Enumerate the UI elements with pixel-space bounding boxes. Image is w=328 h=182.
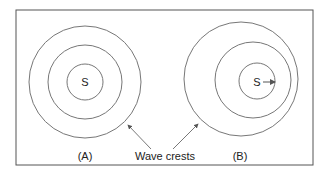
- diagram-frame: [16, 10, 313, 165]
- source-label-a: S: [81, 76, 88, 88]
- doppler-diagram: S (A) S (B) Wave crests: [0, 0, 328, 182]
- panel-label-a: (A): [78, 150, 93, 162]
- wave-crests-label: Wave crests: [135, 150, 196, 162]
- panel-label-b: (B): [233, 150, 248, 162]
- source-label-b: S: [253, 76, 260, 88]
